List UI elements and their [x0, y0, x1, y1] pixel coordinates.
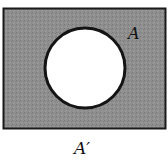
- venn-diagram: A A′: [0, 0, 168, 161]
- complement-label: A′: [74, 140, 90, 157]
- set-a-circle: [45, 28, 125, 108]
- venn-diagram-svg: [0, 0, 168, 161]
- set-a-label: A: [128, 26, 140, 42]
